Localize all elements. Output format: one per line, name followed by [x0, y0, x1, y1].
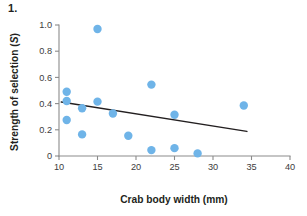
scatter-plot: 00.20.40.60.81.0 10152025303540 Crab bod…: [0, 0, 307, 216]
y-tick-label: 0: [47, 151, 52, 161]
data-point: [62, 88, 70, 96]
data-point: [147, 80, 155, 88]
data-point: [93, 97, 101, 105]
x-tick-label: 20: [131, 162, 141, 172]
data-point: [93, 25, 101, 33]
figure-container: 1. 00.20.40.60.81.0 10152025303540 Crab …: [0, 0, 307, 216]
data-point: [170, 111, 178, 119]
y-axis-title-text: Strength of selection (: [9, 43, 20, 151]
x-tick-label: 35: [246, 162, 256, 172]
data-point: [170, 144, 178, 152]
y-tick-label: 1.0: [39, 20, 52, 30]
x-tick-label: 40: [285, 162, 295, 172]
data-point: [62, 116, 70, 124]
data-point: [78, 130, 86, 138]
x-axis-title: Crab body width (mm): [120, 194, 228, 205]
y-axis-title: Strength of selection (S): [9, 33, 20, 151]
y-tick-label: 0.4: [39, 99, 52, 109]
data-points-group: [62, 25, 248, 158]
x-tick-label: 15: [92, 162, 102, 172]
y-tick-label: 0.2: [39, 125, 52, 135]
x-axis-ticks: 10152025303540: [54, 156, 295, 172]
data-point: [124, 131, 132, 139]
data-point: [193, 149, 201, 157]
data-point: [147, 146, 155, 154]
x-tick-label: 10: [54, 162, 64, 172]
y-axis-title-paren: ): [9, 33, 20, 36]
y-tick-label: 0.8: [39, 46, 52, 56]
y-tick-label: 0.6: [39, 73, 52, 83]
data-point: [62, 97, 70, 105]
y-axis-ticks: 00.20.40.60.81.0: [39, 20, 59, 161]
x-tick-label: 25: [169, 162, 179, 172]
data-point: [78, 104, 86, 112]
data-point: [109, 109, 117, 117]
data-point: [240, 101, 248, 109]
trend-line: [61, 102, 247, 131]
x-tick-label: 30: [208, 162, 218, 172]
axes-group: [59, 25, 290, 156]
